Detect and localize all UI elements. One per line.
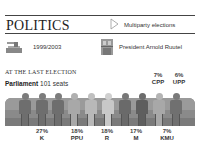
president-name: President Arnold Ruutel: [119, 44, 182, 50]
page-title: POLITICS: [6, 18, 70, 34]
header-bottom-rule: [5, 33, 195, 34]
seat-figure: [102, 93, 114, 126]
triangle-right-icon: [110, 18, 119, 30]
label-ppu: 18%PPU: [65, 128, 89, 142]
seat-figure: [19, 93, 31, 126]
seat-figure: [36, 93, 48, 126]
election-years: 1999/2003: [33, 44, 61, 50]
section-subtitle: Multiparty elections: [124, 22, 175, 28]
header-top-rule: [5, 15, 195, 16]
label-upp: 6%UPP: [167, 72, 191, 86]
seat-figure: [119, 93, 131, 126]
seats-count: 101 seats: [40, 80, 68, 87]
label-m: 17%M: [124, 128, 148, 142]
seat-figure: [52, 93, 64, 126]
label-k: 27%K: [30, 128, 54, 142]
label-r: 18%R: [95, 128, 119, 142]
seat-figure: [136, 93, 148, 126]
seat-figure: [153, 93, 165, 126]
seat-figure: [85, 93, 97, 126]
parliament-label: Parliament: [5, 80, 38, 87]
ballot-box-icon: [5, 40, 23, 54]
election-heading: AT THE LAST ELECTION: [5, 69, 77, 75]
seat-figure: [170, 93, 182, 126]
bench-back: [5, 98, 195, 110]
president-building-icon: [100, 38, 114, 56]
bench-seat: [5, 118, 195, 126]
label-kmu: 7%KMU: [155, 128, 179, 142]
parliament-seats: Parliament 101 seats: [5, 80, 68, 87]
seat-figure: [68, 93, 80, 126]
